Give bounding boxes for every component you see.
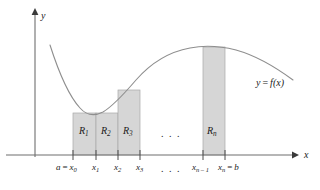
tick-label-suffix: b <box>234 162 239 172</box>
ellipsis-between-tick-labels: . . . <box>161 164 181 174</box>
tick-label-xn-1: xn – 1 <box>192 163 209 173</box>
curve-label-equals: = <box>262 77 268 88</box>
y-axis-label: y <box>41 11 45 21</box>
riemann-rectangles <box>73 47 225 155</box>
tick-label-x0: a=x0 <box>56 163 77 173</box>
x-axis-label: x <box>304 150 308 160</box>
tick-label-sub: 0 <box>74 166 77 173</box>
y-axis-arrow-icon <box>32 8 39 15</box>
tick-label-xn: xn=b <box>218 163 239 173</box>
tick-label-prefix: a <box>56 162 61 172</box>
rectangle-label-rn: Rn <box>207 126 217 138</box>
tick-label-sub: n <box>222 166 225 173</box>
tick-label-sub: 2 <box>118 166 121 173</box>
x-axis-arrow-icon <box>292 152 299 159</box>
rect-label-sub: n <box>213 130 217 138</box>
rect-label-sub: 1 <box>85 130 89 138</box>
tick-label-sub: 3 <box>140 166 143 173</box>
tick-label-x2: x2 <box>114 163 121 173</box>
figure-canvas <box>0 0 320 190</box>
tick-label-sub: n – 1 <box>196 166 209 173</box>
rect-label-sub: 2 <box>107 130 111 138</box>
tick-label-equals: = <box>227 162 232 172</box>
ellipsis-between-rectangles: . . . <box>161 129 181 139</box>
rectangle-label-r3: R3 <box>123 126 133 138</box>
rectangle-label-r2: R2 <box>101 126 111 138</box>
y-axis <box>32 8 39 157</box>
curve-label-arg: (x) <box>273 77 284 88</box>
tick-label-x1: x1 <box>92 163 99 173</box>
rectangle-rn <box>203 47 225 155</box>
curve-label: y=f(x) <box>256 78 284 88</box>
rectangle-label-r1: R1 <box>79 126 89 138</box>
x-axis <box>6 152 299 159</box>
rectangle-r3 <box>118 90 140 155</box>
tick-label-x3: x3 <box>136 163 143 173</box>
curve-label-y: y <box>256 77 260 88</box>
tick-label-sub: 1 <box>96 166 99 173</box>
tick-label-equals: = <box>63 162 68 172</box>
rect-label-sub: 3 <box>129 130 133 138</box>
riemann-sum-figure: y x y=f(x) R1 R2 R3 Rn . . . . . . a=x0 … <box>0 0 320 190</box>
